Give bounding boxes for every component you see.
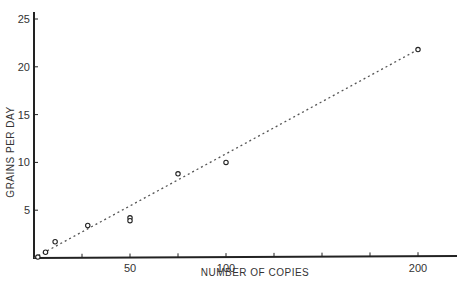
y-axis-title: GRAINS PER DAY xyxy=(5,106,16,197)
y-tick-label: 20 xyxy=(18,61,30,73)
y-tick-label: 25 xyxy=(18,13,30,25)
data-point xyxy=(224,160,228,164)
scatter-chart: 51015202550100200 NUMBER OF COPIES GRAIN… xyxy=(0,0,457,285)
x-tick-label: 200 xyxy=(409,262,427,274)
axes: 51015202550100200 xyxy=(18,12,457,274)
data-point xyxy=(43,250,47,254)
data-point xyxy=(128,219,132,223)
x-axis-title: NUMBER OF COPIES xyxy=(201,267,310,278)
y-tick-label: 15 xyxy=(18,109,30,121)
dotted-fit-line xyxy=(34,50,418,258)
y-tick-label: 5 xyxy=(24,204,30,216)
data-point xyxy=(416,47,420,51)
data-point xyxy=(36,255,40,259)
fit-line xyxy=(34,50,418,258)
y-tick-label: 10 xyxy=(18,156,30,168)
data-point xyxy=(176,172,180,176)
data-point xyxy=(86,223,90,227)
x-axis-line xyxy=(33,256,457,258)
x-tick-label: 50 xyxy=(124,262,136,274)
data-point xyxy=(53,240,57,244)
